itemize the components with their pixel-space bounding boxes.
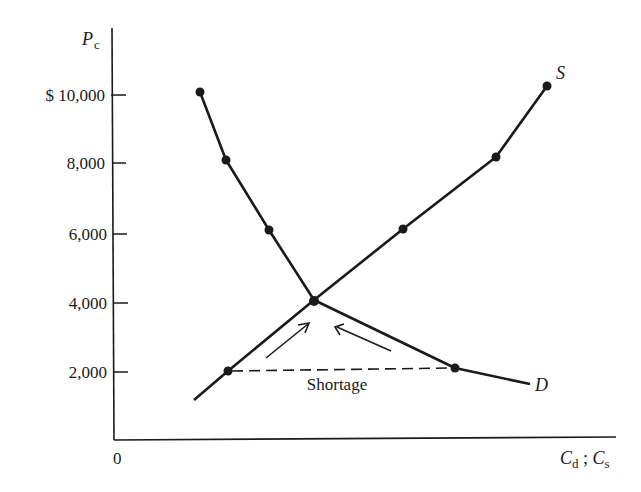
origin-label: 0: [113, 449, 122, 468]
demand-points: [196, 88, 460, 373]
supply-label: S: [556, 63, 565, 83]
demand-point: [222, 156, 231, 165]
demand-label: D: [534, 375, 548, 395]
shortage-dashed-line: [232, 368, 452, 371]
supply-curve: [194, 86, 547, 400]
tick-label-4000: 4,000: [69, 294, 107, 313]
supply-point: [543, 82, 552, 91]
demand-point: [265, 226, 274, 235]
arrow-up-right-icon: [266, 323, 309, 358]
x-axis: [114, 437, 616, 440]
x-axis-title: Cd ; Cs: [560, 448, 610, 471]
tick-label-8000: 8,000: [67, 154, 105, 173]
demand-point: [451, 364, 460, 373]
supply-point: [399, 225, 408, 234]
demand-point: [196, 88, 205, 97]
supply-demand-chart: Pc $ 10,000 8,000 6,000 4,000 2,000 0 Cd…: [0, 0, 641, 492]
supply-point: [492, 153, 501, 162]
tick-label-6000: 6,000: [69, 225, 107, 244]
y-axis-title: Pc: [81, 29, 100, 52]
shortage-label: Shortage: [307, 375, 367, 394]
supply-point: [224, 367, 233, 376]
equilibrium-point: [309, 296, 319, 306]
tick-label-2000: 2,000: [69, 363, 107, 382]
tick-label-10000: $ 10,000: [46, 86, 106, 105]
arrow-up-left-icon: [335, 324, 391, 351]
